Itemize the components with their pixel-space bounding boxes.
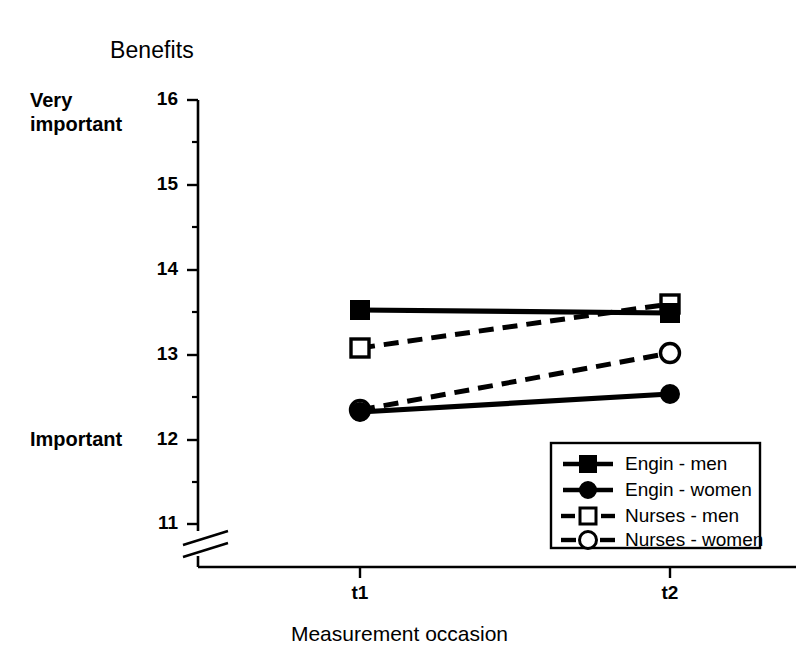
marker-nurses-women-t2 [661,344,680,363]
legend-label-nurses-women: Nurses - women [625,529,763,551]
y-tick-label-15: 15 [138,173,178,195]
chart-title: Benefits [110,38,194,64]
axis-break-marker [183,531,228,557]
y-tick-label-14: 14 [138,258,178,280]
marker-engin-women-t2 [661,385,679,403]
marker-engin-women-t1 [351,403,369,421]
y-anchor-label-very-important: Very important [30,88,122,137]
legend-label-engin-women: Engin - women [625,479,752,501]
series-engin-women [351,385,679,421]
marker-engin-men-t2 [661,304,679,322]
x-tick-label-t2: t2 [640,582,700,604]
chart-figure: Benefits Very important Important 16 15 … [0,0,799,669]
y-tick-label-11: 11 [138,512,178,534]
x-major-ticks [360,567,670,578]
y-tick-label-12: 12 [138,428,178,450]
series-nurses-men [351,295,679,357]
x-axis-title: Measurement occasion [0,622,799,646]
legend-label-engin-men: Engin - men [625,453,727,475]
marker-engin-men-t1 [351,301,369,319]
marker-nurses-men-t1 [351,339,369,357]
legend-label-nurses-men: Nurses - men [625,505,739,527]
y-tick-label-13: 13 [138,343,178,365]
x-tick-label-t1: t1 [330,582,390,604]
y-anchor-label-important: Important [30,428,122,450]
y-tick-label-16: 16 [138,88,178,110]
series-engin-men [351,301,679,322]
